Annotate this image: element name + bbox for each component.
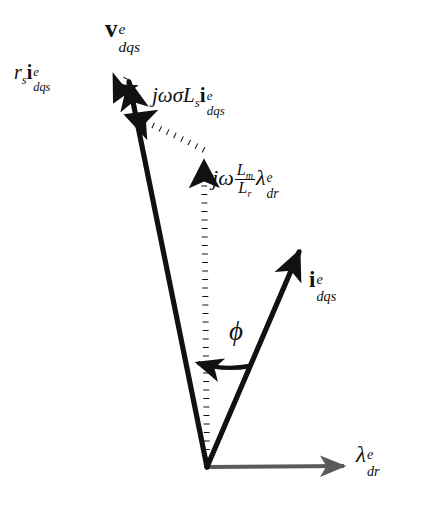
label-backemf-sub: dr [267, 187, 279, 201]
power-factor-angle-arc [198, 363, 250, 368]
label-back-emf: jωLmLrλedr [212, 163, 266, 197]
phasor-diagram-canvas: vedqs rsiedqs jωσLsiedqs jωLmLrλedr iedq… [0, 0, 427, 507]
rotor-flux-vector [207, 466, 344, 467]
label-rsi-sub: dqs [33, 81, 50, 93]
label-rotor-flux-sub: dr [367, 464, 380, 478]
label-rotor-flux-base: λ [356, 442, 366, 467]
label-leakage-omega: ω [158, 83, 173, 107]
label-backemf-sup: e [267, 171, 273, 185]
label-stator-current: iedqs [309, 268, 315, 291]
label-stator-voltage-sub: dqs [119, 39, 141, 55]
label-stator-resistance-drop: rsiedqs [14, 62, 32, 82]
label-rsi-base: i [27, 61, 33, 83]
label-power-factor-angle: ϕ [229, 318, 243, 345]
label-stator-voltage-sup: e [119, 21, 126, 37]
label-stator-voltage-base: v [105, 15, 118, 42]
label-backemf-lambda: λ [256, 165, 266, 190]
label-stator-current-sup: e [316, 272, 322, 286]
label-leakage-sub: dqs [207, 104, 225, 117]
back-emf-vector [204, 163, 207, 467]
label-rotor-flux-sup: e [367, 447, 373, 461]
label-backemf-omega: ω [218, 165, 234, 190]
label-rsi-sup: e [33, 66, 39, 78]
label-rotor-flux: λedr [356, 443, 366, 466]
stator-resistance-drop-vector [115, 78, 126, 100]
label-leakage-sup: e [207, 89, 213, 102]
label-leakage-sigma: σ [173, 83, 183, 107]
label-backemf-numerator: Lm [235, 162, 255, 178]
label-leakage-L: L [183, 83, 195, 107]
label-rs-base: r [14, 61, 22, 83]
stator-current-vector [207, 252, 299, 467]
stator-voltage-vector [129, 82, 207, 467]
label-stator-current-sub: dqs [316, 289, 336, 303]
label-leakage-i: i [200, 83, 206, 107]
label-stator-current-base: i [309, 267, 315, 292]
label-stator-voltage: vedqs [105, 16, 118, 41]
label-leakage-emf: jωσLsiedqs [152, 85, 206, 106]
label-backemf-fraction: LmLr [235, 162, 255, 196]
phasor-vector-graphics [0, 0, 427, 507]
